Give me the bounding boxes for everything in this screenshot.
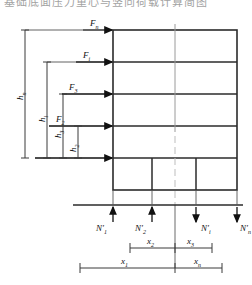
cropped-caption-text: 基础底面压力重心与竖向荷载计算简图 xyxy=(0,0,252,13)
distance-label-x3: x3 xyxy=(186,236,194,248)
cropped-caption-label: 基础底面压力重心与竖向荷载计算简图 xyxy=(4,0,252,9)
reaction-label-1: N′1 xyxy=(95,223,107,235)
reaction-label-i: N′i xyxy=(200,223,211,235)
force-label-i: Fi xyxy=(82,50,91,62)
force-label-n: Fn xyxy=(89,18,99,30)
height-label-3: h3 xyxy=(53,131,65,139)
distance-label-xn: xn xyxy=(193,256,201,268)
height-label-i: hi xyxy=(37,116,49,123)
frame-loading-diagram: Fn Fi F3 F2 xyxy=(0,0,252,285)
distance-label-x2: x2 xyxy=(146,236,154,248)
inner-dimension-row xyxy=(130,243,212,253)
height-label-n: hn xyxy=(15,93,27,101)
distance-label-x1: x1 xyxy=(120,256,128,268)
figure-canvas: 基础底面压力重心与竖向荷载计算简图 xyxy=(0,0,252,285)
reaction-label-2: N′2 xyxy=(134,223,146,235)
reaction-label-n: N′n xyxy=(239,223,251,235)
force-label-3: F3 xyxy=(68,82,78,94)
height-label-2: h2 xyxy=(68,145,80,153)
